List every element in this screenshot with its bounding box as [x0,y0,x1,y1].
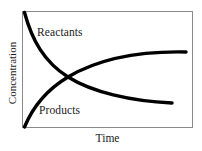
x-axis-label: Time [22,132,193,144]
y-axis-label: Concentration [6,35,18,111]
reaction-kinetics-chart: Reactants Products Concentration Time [0,0,202,151]
series-label-products: Products [39,104,80,116]
series-label-reactants: Reactants [37,26,83,38]
curves-layer [0,0,202,151]
